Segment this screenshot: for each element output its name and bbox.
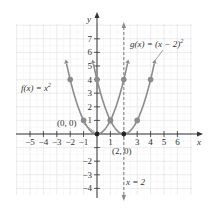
- y-tick-label: −3: [82, 170, 92, 180]
- g-point: [148, 77, 154, 83]
- f-point: [121, 77, 127, 83]
- y-tick-label: −2: [82, 156, 92, 166]
- f-point: [81, 118, 87, 124]
- x-tick-label: 3: [135, 137, 140, 147]
- y-tick-label: 7: [88, 34, 93, 44]
- f-point: [67, 77, 73, 83]
- vertex-annotation: (2, 0): [112, 146, 132, 156]
- y-tick-label: 4: [88, 75, 93, 85]
- x-tick-label: 5: [162, 137, 167, 147]
- x-tick-label: 4: [148, 137, 153, 147]
- y-tick-label: 3: [88, 88, 93, 98]
- y-tick-label: 2: [88, 102, 93, 112]
- g-point: [94, 77, 100, 83]
- x-axis-label: x: [196, 137, 201, 147]
- x-tick-label: −1: [79, 137, 89, 147]
- asymptote-annotation: x = 2: [125, 177, 146, 187]
- parabola-translation-graph: −5−4−3−2−1134567654321−2−3−4 y x f(x) = …: [0, 0, 213, 215]
- x-tick-label: −5: [25, 137, 35, 147]
- dashed-line-arrow-down-icon: [122, 195, 127, 201]
- x-tick-label: −4: [39, 137, 49, 147]
- y-tick-label: 6: [88, 47, 93, 57]
- f-label: f(x) = x2: [21, 82, 51, 93]
- y-axis-label: y: [86, 14, 91, 24]
- y-tick-label: 1: [88, 115, 93, 125]
- g-point: [134, 118, 140, 124]
- x-tick-label: −2: [65, 137, 75, 147]
- g-leader-line: [154, 50, 163, 62]
- x-axis-arrow-icon: [197, 132, 203, 137]
- g-point: [121, 132, 126, 137]
- g-point: [108, 118, 114, 124]
- y-tick-label: −4: [82, 183, 92, 193]
- f-curve-arrow-icon: [64, 59, 68, 63]
- y-axis-arrow-icon: [95, 12, 100, 18]
- origin-annotation: (0, 0): [57, 118, 77, 128]
- x-tick-label: −3: [52, 137, 62, 147]
- x-tick-label: 6: [175, 137, 180, 147]
- g-label: g(x) = (x − 2)2: [130, 38, 183, 49]
- f-curve-arrow-icon: [125, 59, 129, 63]
- grid-lines: [16, 24, 192, 195]
